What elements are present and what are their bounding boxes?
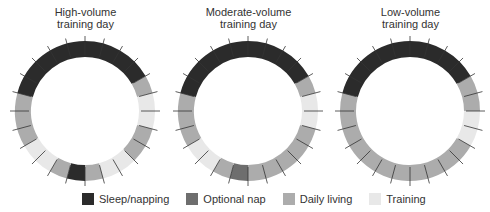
ring-segment-sleep <box>85 41 146 84</box>
ring-segment-sleep <box>410 41 471 84</box>
legend-item-sleep: Sleep/napping <box>82 193 169 205</box>
ring-segment-sleep <box>17 41 85 97</box>
legend-item-optional-nap: Optional nap <box>186 193 265 205</box>
legend-label: Training <box>386 193 425 205</box>
ring-segment-sleep <box>248 41 309 84</box>
legend: Sleep/napping Optional nap Daily living … <box>82 191 443 207</box>
ring-chart-moderate-volume <box>167 36 330 186</box>
title-line-1: Moderate-volume <box>167 6 330 18</box>
legend-swatch-daily-living <box>283 193 295 205</box>
ring-chart-high-volume <box>4 36 167 186</box>
legend-item-training: Training <box>369 193 425 205</box>
title-line-2: training day <box>4 18 167 30</box>
panel-low-volume: Low-volume training day <box>329 0 490 186</box>
ring-chart-low-volume <box>329 36 490 186</box>
title-line-2: training day <box>329 18 490 30</box>
panel-moderate-volume: Moderate-volume training day <box>167 0 330 186</box>
panel-title: Moderate-volume training day <box>167 6 330 30</box>
panel-title: Low-volume training day <box>329 6 490 30</box>
legend-label: Daily living <box>300 193 353 205</box>
legend-swatch-training <box>369 193 381 205</box>
legend-item-daily-living: Daily living <box>283 193 353 205</box>
ring-segment-sleep <box>342 41 410 97</box>
title-line-1: Low-volume <box>329 6 490 18</box>
legend-label: Optional nap <box>203 193 265 205</box>
ring-segment-daily <box>178 93 201 146</box>
legend-label: Sleep/napping <box>99 193 169 205</box>
ring-segment-daily <box>248 125 316 181</box>
panel-title: High-volume training day <box>4 6 167 30</box>
ring-segment-sleep <box>180 41 248 97</box>
legend-swatch-sleep <box>82 193 94 205</box>
ring-segment-daily <box>15 93 38 146</box>
panel-high-volume: High-volume training day <box>4 0 167 186</box>
title-line-2: training day <box>167 18 330 30</box>
legend-swatch-optional-nap <box>186 193 198 205</box>
ring-segment-daily <box>340 93 471 181</box>
title-line-1: High-volume <box>4 6 167 18</box>
